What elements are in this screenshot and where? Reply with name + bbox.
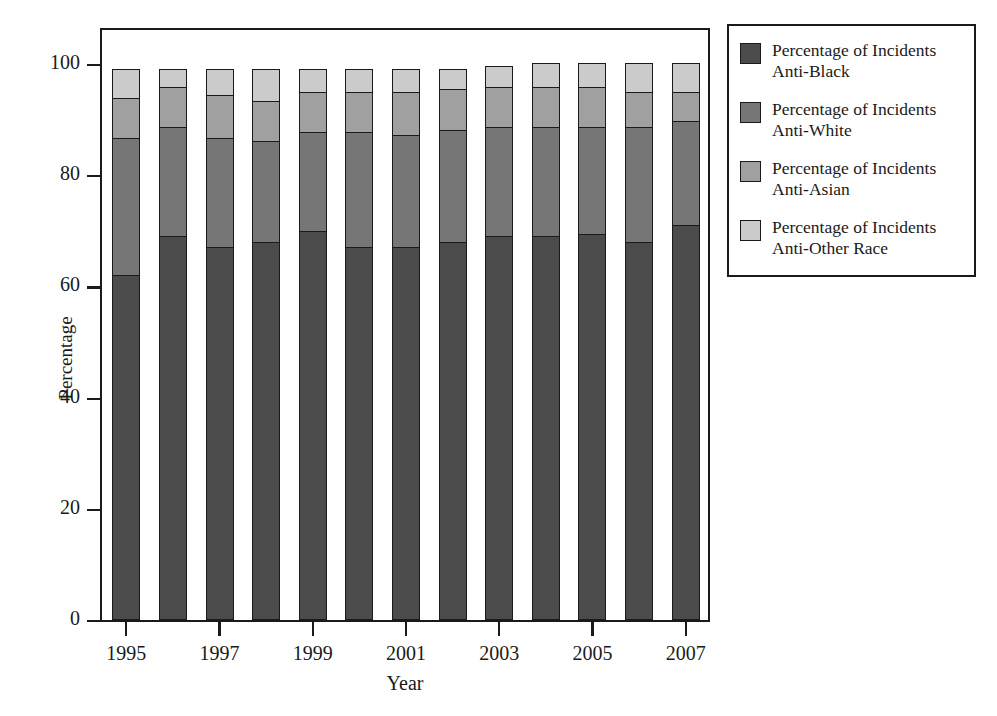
x-tick-label: 1997 (186, 642, 254, 664)
y-tick-label: 40 (60, 385, 80, 407)
bar-segment-anti-white-2001[interactable] (392, 135, 420, 249)
legend-item-4[interactable]: Percentage of IncidentsAnti-Other Race (740, 217, 962, 259)
bar-segment-anti-other-race-2006[interactable] (625, 63, 653, 94)
bar-segment-anti-white-1998[interactable] (252, 141, 280, 244)
bar-stack (578, 63, 606, 620)
bar-segment-anti-asian-1997[interactable] (206, 95, 234, 139)
y-tick-0: 0 (46, 620, 102, 621)
bar-segment-anti-other-race-2001[interactable] (392, 69, 420, 94)
legend-label-line2: Anti-Black (772, 61, 936, 82)
bar-segment-anti-asian-2003[interactable] (485, 87, 513, 129)
bar-segment-anti-other-race-2003[interactable] (485, 66, 513, 88)
x-tick-line (591, 620, 593, 636)
bar-segment-anti-asian-2004[interactable] (532, 87, 560, 129)
bar-segment-anti-other-race-1997[interactable] (206, 69, 234, 97)
y-tick-line (87, 509, 102, 511)
bar-segment-anti-black-2004[interactable] (532, 236, 560, 620)
x-tick-line (685, 620, 687, 636)
bar-stack (439, 69, 467, 620)
y-tick-label: 100 (50, 51, 80, 73)
bar-segment-anti-asian-2005[interactable] (578, 87, 606, 129)
bar-segment-anti-asian-1998[interactable] (252, 101, 280, 143)
y-tick-20: 20 (46, 509, 102, 510)
bar-segment-anti-white-2003[interactable] (485, 127, 513, 238)
bar-segment-anti-asian-2001[interactable] (392, 92, 420, 136)
bar-segment-anti-other-race-1996[interactable] (159, 69, 187, 88)
legend-swatch-icon (740, 43, 761, 64)
y-tick-line (87, 175, 102, 177)
legend-swatch-icon (740, 161, 761, 182)
x-axis-title: Year (100, 672, 710, 695)
bar-segment-anti-black-2000[interactable] (345, 247, 373, 620)
bar-segment-anti-black-2005[interactable] (578, 234, 606, 620)
bar-segment-anti-black-1997[interactable] (206, 247, 234, 620)
bar-segment-anti-white-2005[interactable] (578, 127, 606, 235)
bar-segment-anti-other-race-2005[interactable] (578, 63, 606, 88)
bar-segment-anti-black-2007[interactable] (672, 225, 700, 620)
x-tick-label: 2007 (652, 642, 720, 664)
bar-stack (532, 63, 560, 620)
bar-segment-anti-other-race-1998[interactable] (252, 69, 280, 102)
bar-segment-anti-white-1995[interactable] (112, 138, 140, 277)
y-tick-label: 0 (70, 607, 80, 629)
bar-segment-anti-black-1995[interactable] (112, 275, 140, 620)
bar-stack (159, 69, 187, 620)
bar-segment-anti-black-2001[interactable] (392, 247, 420, 620)
bar-segment-anti-black-2003[interactable] (485, 236, 513, 620)
bar-segment-anti-white-1999[interactable] (299, 132, 327, 232)
bar-segment-anti-black-2002[interactable] (439, 242, 467, 620)
bar-segment-anti-asian-1995[interactable] (112, 98, 140, 140)
bar-segment-anti-white-1996[interactable] (159, 127, 187, 238)
legend-item-3[interactable]: Percentage of IncidentsAnti-Asian (740, 158, 962, 200)
legend-swatch-icon (740, 102, 761, 123)
bar-stack (345, 69, 373, 620)
y-tick-60: 60 (46, 286, 102, 287)
bar-segment-anti-asian-2000[interactable] (345, 92, 373, 134)
bar-segment-anti-black-1998[interactable] (252, 242, 280, 620)
x-tick-label: 1999 (279, 642, 347, 664)
bar-segment-anti-asian-2007[interactable] (672, 92, 700, 123)
bar-segment-anti-other-race-1995[interactable] (112, 69, 140, 100)
bar-segment-anti-asian-2006[interactable] (625, 92, 653, 128)
bar-segment-anti-white-2007[interactable] (672, 121, 700, 227)
bar-segment-anti-white-2004[interactable] (532, 127, 560, 238)
y-tick-line (87, 398, 102, 400)
legend-label-line2: Anti-White (772, 120, 936, 141)
x-tick-label: 2005 (558, 642, 626, 664)
bar-segment-anti-asian-2002[interactable] (439, 89, 467, 131)
bar-stack (392, 69, 420, 620)
y-tick-line (87, 620, 102, 622)
y-tick-label: 60 (60, 273, 80, 295)
bar-segment-anti-other-race-1999[interactable] (299, 69, 327, 94)
legend-item-1[interactable]: Percentage of IncidentsAnti-Black (740, 40, 962, 82)
y-tick-label: 80 (60, 162, 80, 184)
x-tick-line (218, 620, 220, 636)
legend-swatch-icon (740, 220, 761, 241)
y-tick-label: 20 (60, 496, 80, 518)
bar-segment-anti-other-race-2002[interactable] (439, 69, 467, 91)
bar-segment-anti-white-2000[interactable] (345, 132, 373, 249)
bar-segment-anti-white-2006[interactable] (625, 127, 653, 244)
bar-segment-anti-asian-1996[interactable] (159, 87, 187, 129)
bar-stack (625, 63, 653, 620)
x-tick-line (125, 620, 127, 636)
y-tick-100: 100 (46, 64, 102, 65)
legend-item-2[interactable]: Percentage of IncidentsAnti-White (740, 99, 962, 141)
bar-segment-anti-black-1999[interactable] (299, 231, 327, 620)
bar-segment-anti-black-1996[interactable] (159, 236, 187, 620)
bar-segment-anti-other-race-2000[interactable] (345, 69, 373, 94)
bar-segment-anti-other-race-2004[interactable] (532, 63, 560, 88)
bar-stack (299, 69, 327, 620)
x-tick-line (498, 620, 500, 636)
bar-segment-anti-white-2002[interactable] (439, 130, 467, 244)
bar-segment-anti-white-1997[interactable] (206, 138, 234, 249)
legend-label-line1: Percentage of Incidents (772, 217, 936, 237)
legend-label-line2: Anti-Asian (772, 179, 936, 200)
bar-segment-anti-black-2006[interactable] (625, 242, 653, 620)
bar-segment-anti-asian-1999[interactable] (299, 92, 327, 134)
legend-label: Percentage of IncidentsAnti-Black (772, 40, 936, 82)
legend-label: Percentage of IncidentsAnti-White (772, 99, 936, 141)
bar-segment-anti-other-race-2007[interactable] (672, 63, 700, 94)
y-tick-40: 40 (46, 398, 102, 399)
chart-legend: Percentage of IncidentsAnti-BlackPercent… (727, 24, 976, 277)
